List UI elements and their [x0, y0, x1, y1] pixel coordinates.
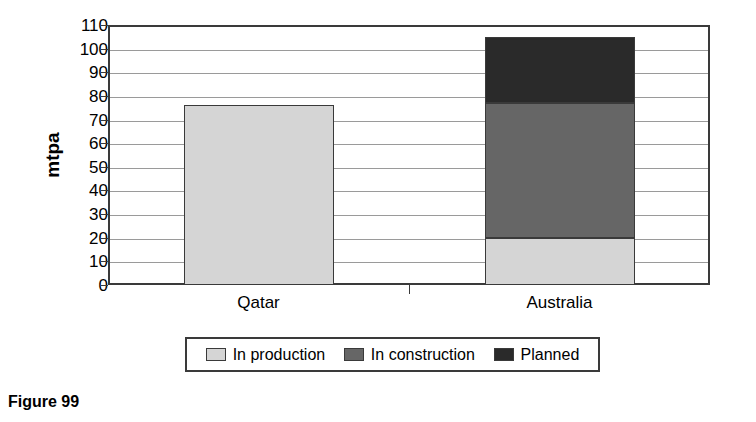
y-axis-tick-mark: [101, 49, 108, 50]
y-axis-tick-mark: [101, 25, 108, 26]
figure-caption: Figure 99: [8, 393, 79, 411]
y-axis-tick-mark: [101, 96, 108, 97]
y-axis-tick-mark: [101, 238, 108, 239]
y-axis-tick-mark: [101, 261, 108, 262]
chart-legend: In productionIn constructionPlanned: [185, 337, 600, 372]
category-label-australia: Australia: [470, 293, 650, 313]
legend-swatch-icon: [344, 348, 364, 361]
legend-item-planned[interactable]: Planned: [494, 346, 580, 364]
legend-item-in-construction[interactable]: In construction: [344, 346, 475, 364]
bar-segment-in-production: [485, 238, 635, 285]
bar-segment-in-construction: [485, 103, 635, 238]
legend-label: In production: [233, 346, 326, 364]
category-separator-tick: [409, 285, 410, 294]
bar-qatar: [184, 25, 334, 285]
bar-segment-planned: [485, 37, 635, 103]
y-axis-tick-mark: [101, 143, 108, 144]
legend-swatch-icon: [494, 348, 514, 361]
y-axis-tick-mark: [101, 120, 108, 121]
legend-label: Planned: [521, 346, 580, 364]
legend-swatch-icon: [206, 348, 226, 361]
bar-australia: [485, 25, 635, 285]
bar-segment-in-production: [184, 105, 334, 285]
y-axis-tick-mark: [101, 190, 108, 191]
y-axis-tick-mark: [101, 167, 108, 168]
y-axis-tick-mark: [101, 214, 108, 215]
figure-container: mtpa 1101009080706050403020100 QatarAust…: [0, 0, 756, 422]
y-axis-tick-mark: [101, 285, 108, 286]
legend-label: In construction: [371, 346, 475, 364]
y-axis-tick-mark: [101, 72, 108, 73]
legend-item-in-production[interactable]: In production: [206, 346, 326, 364]
y-axis: 1101009080706050403020100: [52, 25, 108, 285]
category-label-qatar: Qatar: [169, 293, 349, 313]
